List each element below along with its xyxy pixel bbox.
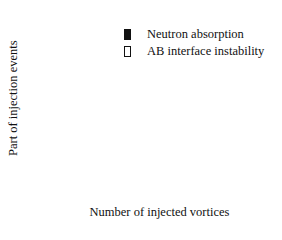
legend-item-ab-interface-instability: AB interface instability [124, 43, 264, 60]
filled-square-icon [124, 29, 131, 40]
legend-label: Neutron absorption [147, 26, 244, 43]
legend-label: AB interface instability [147, 43, 264, 60]
open-square-icon [124, 46, 131, 57]
x-axis-label: Number of injected vortices [49, 205, 270, 220]
y-axis-label: Part of injection events [6, 44, 22, 156]
legend-item-neutron-absorption: Neutron absorption [124, 26, 264, 43]
legend: Neutron absorption AB interface instabil… [150, 26, 264, 60]
